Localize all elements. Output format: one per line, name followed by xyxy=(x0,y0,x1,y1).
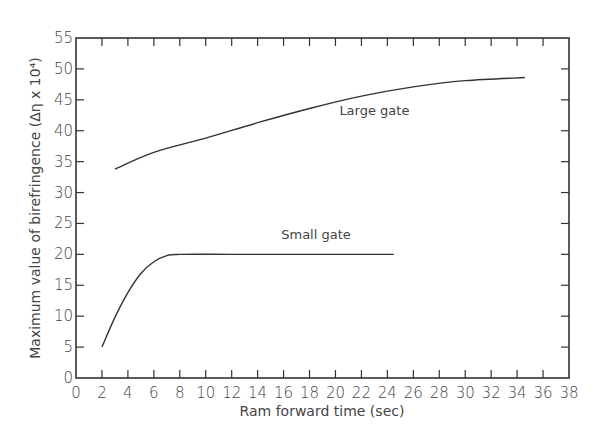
x-tick-label: 38 xyxy=(559,384,578,402)
y-tick-label: 30 xyxy=(54,184,73,202)
plot-frame xyxy=(76,38,569,378)
x-tick-label: 28 xyxy=(430,384,449,402)
y-tick-label: 10 xyxy=(54,307,73,325)
y-axis-label: Maximum value of birefringence (Δη x 10⁴… xyxy=(27,57,43,358)
x-tick-label: 36 xyxy=(534,384,553,402)
y-tick-label: 5 xyxy=(63,338,73,356)
x-tick-label: 12 xyxy=(222,384,241,402)
data-curves: Large gateSmall gate xyxy=(102,78,525,348)
x-tick-label: 22 xyxy=(352,384,371,402)
y-tick-label: 40 xyxy=(54,122,73,140)
x-tick-label: 4 xyxy=(123,384,133,402)
x-axis-label: Ram forward time (sec) xyxy=(240,403,405,419)
x-tick-label: 32 xyxy=(482,384,501,402)
x-tick-label: 20 xyxy=(326,384,345,402)
x-tick-label: 18 xyxy=(300,384,319,402)
x-tick-label: 6 xyxy=(149,384,159,402)
x-tick-label: 8 xyxy=(175,384,185,402)
large-gate-label: Large gate xyxy=(339,103,409,118)
x-tick-label: 24 xyxy=(378,384,397,402)
small-gate-label: Small gate xyxy=(281,227,351,242)
large-gate-curve xyxy=(115,78,525,169)
x-tick-label: 30 xyxy=(456,384,475,402)
y-tick-label: 35 xyxy=(54,153,73,171)
y-tick-label: 55 xyxy=(54,29,73,47)
birefringence-chart: 0246810121416182022242628303234363805101… xyxy=(0,0,603,440)
y-tick-label: 20 xyxy=(54,245,73,263)
y-tick-label: 45 xyxy=(54,91,73,109)
axis-ticks: 0246810121416182022242628303234363805101… xyxy=(54,29,579,402)
x-tick-label: 34 xyxy=(508,384,527,402)
x-tick-label: 14 xyxy=(248,384,267,402)
y-tick-label: 25 xyxy=(54,214,73,232)
y-tick-label: 15 xyxy=(54,276,73,294)
x-tick-label: 10 xyxy=(196,384,215,402)
y-tick-label: 0 xyxy=(63,369,73,387)
x-tick-label: 2 xyxy=(97,384,107,402)
y-tick-label: 50 xyxy=(54,60,73,78)
small-gate-curve xyxy=(102,254,394,347)
x-tick-label: 16 xyxy=(274,384,293,402)
x-tick-label: 26 xyxy=(404,384,423,402)
